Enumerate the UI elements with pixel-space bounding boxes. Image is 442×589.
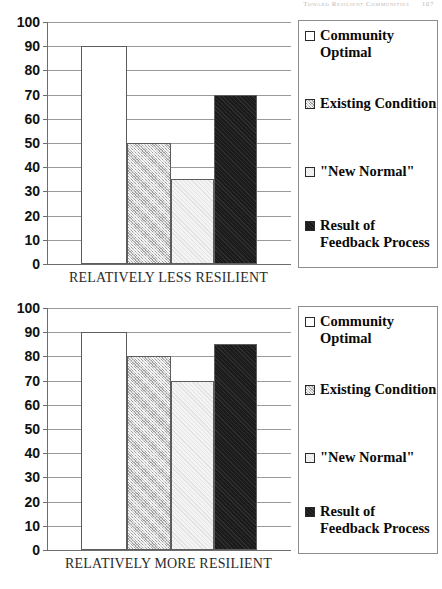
legend-item: Result of Feedback Process: [305, 217, 437, 250]
y-axis-tick-label: 90: [0, 39, 40, 53]
bar-group-top: [48, 22, 291, 264]
y-axis-tick-label: 0: [0, 543, 40, 557]
y-axis-labels-top: 1009080706050403020100: [0, 14, 40, 272]
y-axis-tick-label: 70: [0, 374, 40, 388]
y-axis-labels-bottom: 1009080706050403020100: [0, 300, 40, 558]
x-axis-caption-bottom: RELATIVELY MORE RESILIENT: [47, 556, 290, 572]
y-axis-tick-label: 30: [0, 470, 40, 484]
black-square-icon: [305, 221, 315, 231]
white-square-icon: [305, 31, 315, 41]
y-axis-tick-label: 50: [0, 422, 40, 436]
axis-tick: [43, 550, 48, 551]
legend-item: Community Optimal: [305, 27, 437, 60]
y-axis-tick-label: 50: [0, 136, 40, 150]
y-axis-tick-label: 30: [0, 184, 40, 198]
plot-area-bottom: 1009080706050403020100 RELATIVELY MORE R…: [0, 300, 300, 558]
axis-tick: [43, 264, 48, 265]
legend-item-label: Community Optimal: [320, 313, 437, 346]
gray-hatch-square-icon: [305, 385, 315, 395]
legend-item-label: Result of Feedback Process: [320, 217, 437, 250]
legend-item-label: "New Normal": [320, 449, 415, 466]
bar: [171, 381, 214, 550]
legend-bottom: Community OptimalExisting Condition"New …: [298, 306, 438, 554]
bar: [127, 356, 171, 550]
bar: [171, 179, 214, 264]
legend-item: Community Optimal: [305, 313, 437, 346]
bar: [81, 332, 127, 550]
legend-item: Result of Feedback Process: [305, 503, 437, 536]
running-head-page-number: 107: [422, 0, 434, 8]
gray-hatch-square-icon: [305, 99, 315, 109]
bar: [214, 344, 257, 550]
y-axis-tick-label: 70: [0, 88, 40, 102]
legend-item-label: Result of Feedback Process: [320, 503, 437, 536]
y-axis-tick-label: 90: [0, 325, 40, 339]
legend-item: Existing Condition: [305, 381, 437, 398]
y-axis-tick-label: 40: [0, 446, 40, 460]
light-square-icon: [305, 453, 315, 463]
legend-item: Existing Condition: [305, 95, 437, 112]
legend-top: Community OptimalExisting Condition"New …: [298, 20, 438, 268]
chart-relatively-more-resilient: 1009080706050403020100 RELATIVELY MORE R…: [0, 300, 442, 589]
y-axis-tick-label: 10: [0, 519, 40, 533]
legend-item-label: "New Normal": [320, 163, 415, 180]
y-axis-tick-label: 0: [0, 257, 40, 271]
bar: [127, 143, 171, 264]
chart-relatively-less-resilient: 1009080706050403020100 RELATIVELY LESS R…: [0, 14, 442, 296]
y-axis-tick-label: 80: [0, 63, 40, 77]
legend-item: "New Normal": [305, 449, 437, 466]
legend-item-label: Existing Condition: [320, 381, 436, 398]
black-square-icon: [305, 507, 315, 517]
y-axis-tick-label: 100: [0, 15, 40, 29]
y-axis-tick-label: 10: [0, 233, 40, 247]
y-axis-tick-label: 60: [0, 112, 40, 126]
plot-area-top: 1009080706050403020100 RELATIVELY LESS R…: [0, 14, 300, 272]
y-axis-tick-label: 60: [0, 398, 40, 412]
plot-box-bottom: [47, 308, 291, 551]
y-axis-tick-label: 20: [0, 495, 40, 509]
bar-group-bottom: [48, 308, 291, 550]
white-square-icon: [305, 317, 315, 327]
y-axis-tick-label: 80: [0, 349, 40, 363]
y-axis-tick-label: 20: [0, 209, 40, 223]
y-axis-tick-label: 40: [0, 160, 40, 174]
plot-box-top: [47, 22, 291, 265]
bar: [214, 95, 257, 264]
x-axis-caption-top: RELATIVELY LESS RESILIENT: [47, 270, 290, 286]
running-head-title: Toward Resilient Communities: [303, 0, 409, 8]
legend-item: "New Normal": [305, 163, 437, 180]
y-axis-tick-label: 100: [0, 301, 40, 315]
bar: [81, 46, 127, 264]
legend-item-label: Existing Condition: [320, 95, 436, 112]
light-square-icon: [305, 167, 315, 177]
running-head: Toward Resilient Communities 107: [0, 0, 442, 12]
legend-item-label: Community Optimal: [320, 27, 437, 60]
